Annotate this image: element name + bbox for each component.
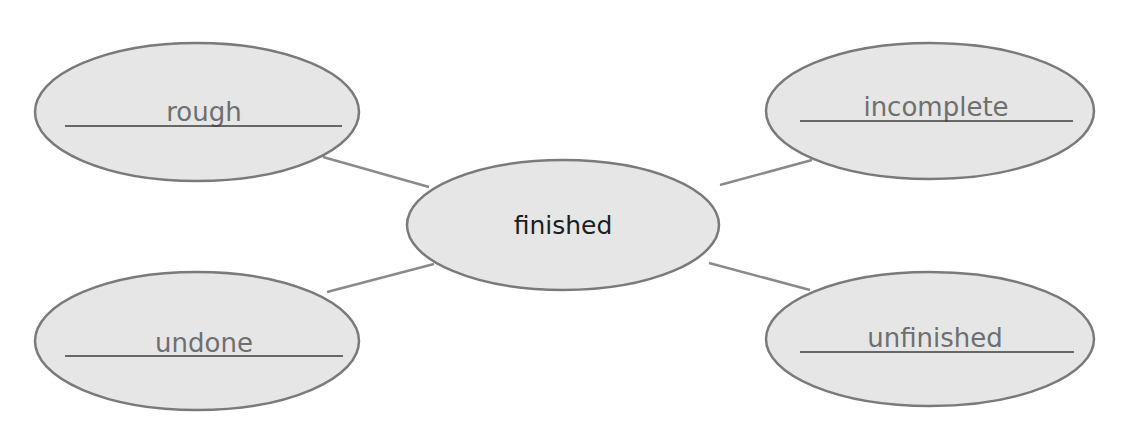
node-rough: rough: [35, 43, 359, 181]
connector-line-rough: [323, 157, 429, 187]
node-word-label: undone: [155, 328, 253, 358]
connector-line-unfinished: [709, 263, 810, 290]
center-word-label: finished: [514, 211, 613, 240]
node-word-label: incomplete: [863, 92, 1008, 122]
connector-line-undone: [327, 264, 434, 292]
connector-line-incomplete: [720, 160, 812, 185]
node-undone: undone: [35, 272, 359, 410]
node-word-label: unfinished: [867, 323, 1003, 353]
word-web-diagram: roughincompleteundoneunfinished finished: [0, 0, 1125, 432]
center-node: finished: [407, 160, 719, 290]
node-word-label: rough: [166, 97, 242, 127]
node-incomplete: incomplete: [766, 43, 1094, 179]
node-unfinished: unfinished: [766, 272, 1094, 406]
